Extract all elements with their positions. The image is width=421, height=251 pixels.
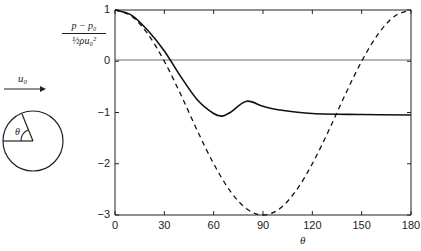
y-tick-label: 1 (90, 3, 110, 15)
y-tick-label: 0 (90, 54, 110, 66)
axis-ticks (115, 10, 411, 215)
y-tick-label: −1 (90, 106, 110, 118)
y-label-numerator: p − p₀ (62, 20, 106, 32)
plot-frame (115, 10, 411, 215)
y-axis-label: p − p₀ ½ρu₀² (62, 20, 106, 47)
cylinder-diagram (3, 86, 63, 171)
flow-velocity-label: u₀ (18, 72, 27, 84)
x-tick-label: 0 (105, 219, 125, 231)
x-tick-label: 150 (352, 219, 372, 231)
x-tick-label: 120 (302, 219, 322, 231)
x-tick-label: 90 (253, 219, 273, 231)
solid-curve (115, 10, 411, 116)
x-tick-label: 30 (154, 219, 174, 231)
x-tick-label: 180 (401, 219, 421, 231)
y-label-denominator: ½ρu₀² (62, 35, 106, 47)
y-tick-label: −2 (90, 157, 110, 169)
dashed-curve (115, 10, 411, 215)
x-axis-label: θ (300, 234, 305, 246)
x-tick-label: 60 (204, 219, 224, 231)
angle-label: θ (15, 126, 20, 137)
